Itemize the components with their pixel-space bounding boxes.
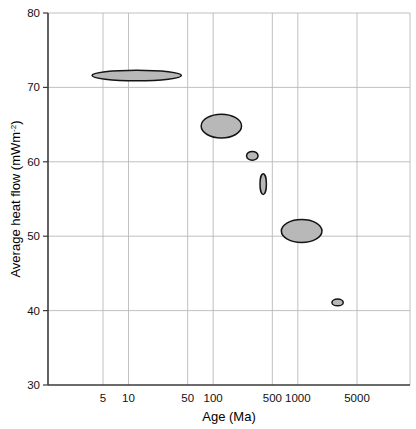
x-tick-label-50: 50 [181, 392, 194, 404]
x-axis-ticks: 5105010050010005000 [100, 392, 370, 404]
y-tick-label-30: 30 [27, 379, 40, 391]
data-ellipse-band-5 [281, 219, 322, 242]
data-markers [92, 70, 343, 305]
y-axis-title: Average heat flow (mWm-2) [8, 120, 23, 277]
chart-container: 807060504030 5105010050010005000 Age (Ma… [0, 0, 416, 429]
x-tick-label-5: 5 [100, 392, 106, 404]
y-tick-label-40: 40 [27, 305, 40, 317]
x-tick-label-100: 100 [204, 392, 223, 404]
y-tick-label-60: 60 [27, 156, 40, 168]
data-ellipse-band-6 [332, 299, 343, 306]
y-axis-title-close: ) [8, 120, 23, 124]
heat-flow-age-scatter-plot: 807060504030 5105010050010005000 Age (Ma… [0, 0, 416, 429]
y-tick-label-70: 70 [27, 81, 40, 93]
plot-frame [48, 13, 410, 385]
x-tick-label-5000: 5000 [344, 392, 370, 404]
y-tick-label-50: 50 [27, 230, 40, 242]
grid-lines [48, 13, 410, 385]
y-tick-label-80: 80 [27, 7, 40, 19]
data-ellipse-band-3 [247, 151, 258, 160]
y-axis-title-main: Average heat flow (mWm [8, 132, 23, 278]
data-ellipse-band-4 [260, 174, 266, 195]
x-axis-title: Age (Ma) [202, 409, 255, 424]
data-ellipse-band-2 [201, 114, 241, 138]
y-axis-ticks: 807060504030 [27, 7, 48, 391]
x-tick-label-1000: 1000 [285, 392, 311, 404]
x-tick-label-10: 10 [122, 392, 135, 404]
x-tick-label-500: 500 [263, 392, 282, 404]
data-ellipse-band-1 [92, 70, 181, 80]
